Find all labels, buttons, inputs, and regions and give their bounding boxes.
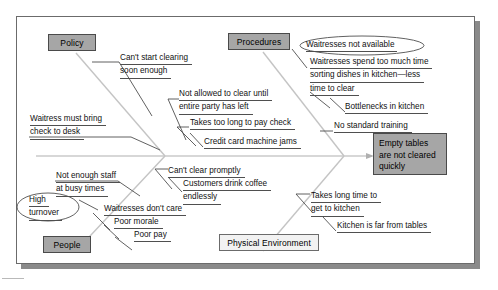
cause-waitress-must-bring-check-line1: Waitress must bring: [30, 113, 106, 126]
cause-not-allowed-to-clear-line1: Not allowed to clear until: [179, 88, 272, 101]
cause-kitchen-is-far-from-tables-line1: Kitchen is far from tables: [337, 220, 431, 233]
cause-waitresses-sorting-dishes-line2: sorting dishes in kitchen—less: [310, 69, 424, 82]
fishbone-diagram-canvas: Policy Procedures People Physical Enviro…: [0, 0, 498, 290]
cause-credit-card-machine-jams-line1: Credit card machine jams: [204, 136, 301, 149]
category-box-physical-environment[interactable]: Physical Environment: [219, 234, 319, 251]
cause-waitress-must-bring-check[interactable]: Waitress must bring check to desk: [30, 113, 106, 140]
cause-not-enough-staff-line2: at busy times: [56, 183, 108, 196]
effect-box[interactable]: Empty tables are not cleared quickly: [373, 133, 447, 175]
cause-cant-start-clearing-line2: soon enough: [120, 65, 171, 78]
category-box-procedures[interactable]: Procedures: [228, 33, 290, 50]
cause-customers-drink-coffee-line2: endlessly: [183, 191, 221, 204]
cause-takes-too-long-to-pay-check[interactable]: Takes too long to pay check: [190, 117, 295, 130]
cause-waitresses-not-available-line1: Waitresses not available: [306, 39, 397, 52]
cause-cant-start-clearing-line1: Can't start clearing: [120, 52, 192, 65]
category-box-people[interactable]: People: [43, 236, 91, 253]
effect-line-1: Empty tables: [379, 138, 441, 150]
cause-cant-start-clearing[interactable]: Can't start clearing soon enough: [120, 52, 192, 79]
cause-not-allowed-to-clear[interactable]: Not allowed to clear until entire party …: [179, 88, 272, 115]
cause-high-turnover-line1: High: [29, 194, 49, 207]
cause-waitresses-sorting-dishes[interactable]: Waitresses spend too much time sorting d…: [310, 56, 432, 96]
cause-cant-clear-promptly[interactable]: Can't clear promptly: [168, 165, 245, 178]
cause-waitresses-dont-care-line1: Waitresses don't care: [104, 203, 186, 216]
cause-cant-clear-promptly-line1: Can't clear promptly: [168, 165, 245, 178]
category-label-people: People: [53, 240, 80, 250]
cause-waitresses-sorting-dishes-line3: time to clear: [310, 83, 359, 96]
cause-waitresses-sorting-dishes-line1: Waitresses spend too much time: [310, 56, 432, 69]
cause-waitresses-dont-care[interactable]: Waitresses don't care: [104, 203, 186, 216]
cause-poor-pay[interactable]: Poor pay: [134, 229, 171, 242]
cause-kitchen-is-far-from-tables[interactable]: Kitchen is far from tables: [337, 220, 431, 233]
cause-credit-card-machine-jams[interactable]: Credit card machine jams: [204, 136, 301, 149]
cause-bottlenecks-in-kitchen-line1: Bottlenecks in kitchen: [345, 101, 428, 114]
cause-high-turnover[interactable]: High turnover: [29, 194, 62, 221]
category-label-policy: Policy: [60, 38, 83, 48]
category-label-procedures: Procedures: [237, 37, 281, 47]
cause-takes-too-long-to-pay-check-line1: Takes too long to pay check: [190, 117, 295, 130]
effect-line-2: are not cleared: [379, 150, 441, 162]
corner-mark: [2, 278, 24, 279]
cause-no-standard-training[interactable]: No standard training: [334, 120, 412, 133]
cause-takes-long-time-to-get-to-kitchen[interactable]: Takes long time to get to kitchen: [311, 190, 381, 217]
cause-customers-drink-coffee-line1: Customers drink coffee: [183, 178, 271, 191]
effect-line-3: quickly: [379, 161, 441, 173]
category-label-physical-environment: Physical Environment: [227, 238, 311, 248]
cause-waitress-must-bring-check-line2: check to desk: [30, 126, 84, 139]
cause-not-enough-staff-line1: Not enough staff: [56, 170, 120, 183]
cause-bottlenecks-in-kitchen[interactable]: Bottlenecks in kitchen: [345, 101, 428, 114]
cause-not-enough-staff[interactable]: Not enough staff at busy times: [56, 170, 120, 197]
cause-takes-long-time-line1: Takes long time to: [311, 190, 381, 203]
cause-high-turnover-line2: turnover: [29, 207, 62, 220]
cause-waitresses-not-available[interactable]: Waitresses not available: [306, 39, 397, 52]
cause-poor-morale[interactable]: Poor morale: [114, 216, 163, 229]
cause-poor-morale-line1: Poor morale: [114, 216, 163, 229]
cause-not-allowed-to-clear-line2: entire party has left: [179, 101, 253, 114]
category-box-policy[interactable]: Policy: [48, 34, 96, 51]
cause-customers-drink-coffee[interactable]: Customers drink coffee endlessly: [183, 178, 271, 205]
cause-poor-pay-line1: Poor pay: [134, 229, 171, 242]
cause-takes-long-time-line2: get to kitchen: [311, 203, 364, 216]
cause-no-standard-training-line1: No standard training: [334, 120, 412, 133]
